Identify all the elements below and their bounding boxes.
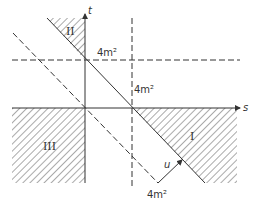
u-axis-label: u [164,159,170,170]
diagonal-threshold-label: 4m² [147,189,167,200]
horizontal-threshold-label: 4m² [97,47,117,58]
t-axis-label: t [88,5,93,16]
region-ii-label: II [66,25,75,38]
vertical-threshold-label: 4m² [134,84,154,95]
region-i-label: I [190,130,194,143]
mandelstam-diagram: t s u 4m² 4m² 4m² II III I [0,0,256,205]
s-axis-label: s [243,102,248,113]
diagram-canvas: t s u 4m² 4m² 4m² II III I [0,0,256,205]
region-iii-label: III [43,140,56,153]
